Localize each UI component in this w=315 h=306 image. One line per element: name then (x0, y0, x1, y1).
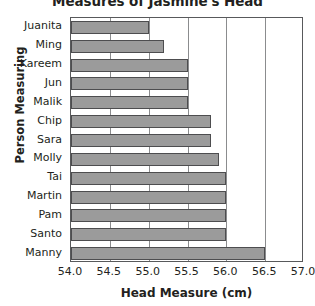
x-tick-label: 57.0 (291, 265, 315, 278)
bar-row (71, 153, 219, 166)
bar-row (71, 191, 226, 204)
bar (71, 59, 188, 72)
bar-row (71, 77, 188, 90)
x-axis-title: Head Measure (cm) (70, 286, 303, 300)
bar-row (71, 40, 164, 53)
bars (71, 18, 302, 261)
y-tick-label: Juanita (24, 20, 62, 31)
bar (71, 172, 226, 185)
x-tick-label: 55.0 (135, 265, 160, 278)
bar (71, 153, 219, 166)
x-tick-label: 54.5 (97, 265, 122, 278)
plot-area (70, 17, 303, 262)
bar-row (71, 96, 188, 109)
bar-row (71, 172, 226, 185)
bar-row (71, 134, 211, 147)
bar-row (71, 115, 211, 128)
bar-row (71, 21, 149, 34)
y-tick-label: Kareem (20, 58, 62, 69)
bar (71, 21, 149, 34)
bar-row (71, 228, 226, 241)
y-tick-label: Chip (37, 115, 62, 126)
bar (71, 191, 226, 204)
y-tick-label: Molly (33, 152, 62, 163)
bar-row (71, 59, 188, 72)
bar (71, 247, 265, 260)
y-axis-tick-labels: JuanitaMingKareemJunMalikChipSaraMollyTa… (0, 17, 66, 262)
bar (71, 228, 226, 241)
x-tick-label: 56.5 (252, 265, 277, 278)
y-tick-label: Santo (30, 228, 62, 239)
y-tick-label: Malik (33, 96, 62, 107)
x-tick-label: 54.0 (58, 265, 83, 278)
y-tick-label: Jun (45, 77, 62, 88)
bar-chart: Measures of Jasmine's Head Person Measur… (0, 0, 315, 306)
x-tick-label: 55.5 (174, 265, 199, 278)
y-tick-label: Pam (38, 209, 62, 220)
bar-row (71, 209, 226, 222)
bar (71, 209, 226, 222)
bar (71, 115, 211, 128)
bar (71, 134, 211, 147)
bar (71, 96, 188, 109)
bar (71, 77, 188, 90)
bar-row (71, 247, 265, 260)
y-tick-label: Tai (47, 171, 62, 182)
y-tick-label: Martin (27, 190, 62, 201)
y-tick-label: Ming (35, 39, 62, 50)
y-tick-label: Manny (25, 247, 62, 258)
x-axis-tick-labels: 54.054.555.055.556.056.557.0 (70, 265, 303, 281)
x-tick-label: 56.0 (213, 265, 238, 278)
bar (71, 40, 164, 53)
y-tick-label: Sara (37, 134, 62, 145)
chart-title: Measures of Jasmine's Head (0, 0, 315, 9)
